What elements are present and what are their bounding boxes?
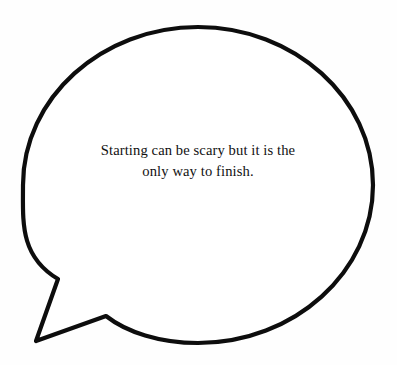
bubble-quote: Starting can be scary but it is the only… — [62, 140, 334, 182]
quote-line-2: only way to finish. — [62, 161, 334, 182]
speech-bubble-outline — [23, 27, 373, 343]
speech-bubble-graphic — [0, 0, 397, 365]
image-canvas: Starting can be scary but it is the only… — [0, 0, 397, 365]
quote-line-1: Starting can be scary but it is the — [62, 140, 334, 161]
